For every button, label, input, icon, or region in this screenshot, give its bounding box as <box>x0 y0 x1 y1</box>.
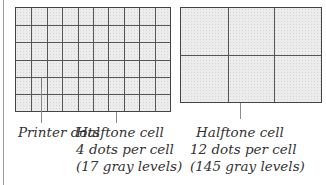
grid-row-line <box>16 25 170 26</box>
grid-row-line <box>16 60 170 61</box>
page-edge-rule <box>3 0 4 185</box>
right-cell-title: Halftone cell <box>190 124 290 141</box>
right-halftone-grid <box>180 7 322 103</box>
grid-row-line <box>16 42 170 43</box>
left-cell-levels: (17 gray levels) <box>76 158 160 175</box>
grid-row-line <box>16 77 170 78</box>
right-cell-pointer <box>240 103 241 119</box>
grid-row-line <box>181 55 321 56</box>
left-halftone-grid <box>15 7 171 112</box>
left-cell-title: Halftone cell <box>76 124 160 141</box>
right-cell-caption: Halftone cell 12 dots per cell (145 gray… <box>190 124 290 175</box>
printer-dots-label: Printer dots <box>18 124 78 141</box>
left-cell-caption: Halftone cell 4 dots per cell (17 gray l… <box>76 124 160 175</box>
left-cell-pointer <box>116 112 117 123</box>
printer-dots-pointer <box>41 88 42 123</box>
grid-row-line <box>16 94 170 95</box>
left-cell-dots: 4 dots per cell <box>76 141 160 158</box>
right-cell-dots: 12 dots per cell <box>190 141 290 158</box>
right-cell-levels: (145 gray levels) <box>190 158 290 175</box>
